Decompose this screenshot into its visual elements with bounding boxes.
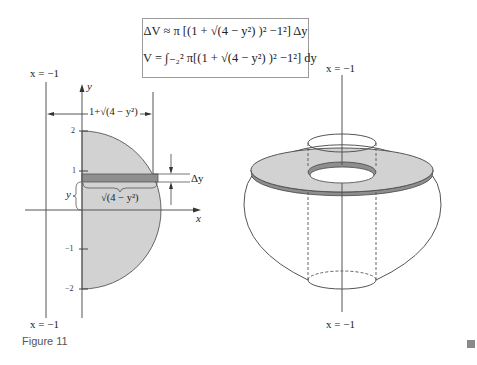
width-label: 1+√(4 − y²) (89, 106, 138, 117)
delta-v-formula: ΔV ≈ π [(1 + √(4 − y²) )² −1²] Δy (143, 24, 308, 39)
axis-label-top: x = −1 (326, 62, 355, 74)
figure-caption: Figure 11 (22, 335, 68, 347)
end-of-example-icon (467, 340, 475, 348)
y-axis-arrow-icon (80, 84, 85, 92)
line-label-top: x = −1 (30, 67, 59, 79)
formula-box: ΔV ≈ π [(1 + √(4 − y²) )² −1²] Δy V = ∫₋… (142, 18, 309, 78)
tick-2: 2 (71, 126, 75, 135)
strip-width-label: √(4 − y²) (101, 192, 139, 203)
volume-formula: V = ∫₋₂² π[(1 + √(4 − y²) )² −1²] dy (143, 50, 308, 66)
tick-neg-1: −1 (65, 244, 74, 253)
washer-hole (310, 167, 374, 183)
y-brace (73, 182, 81, 210)
strip (82, 174, 158, 182)
x-axis-label: x (196, 212, 201, 224)
right-diagram (244, 75, 441, 312)
tick-neg-2: −2 (65, 284, 74, 293)
delta-y-label: Δy (191, 172, 204, 184)
line-label-bottom: x = −1 (30, 318, 59, 330)
axis-label-bottom: x = −1 (326, 318, 355, 330)
strip-height-label: y (66, 188, 71, 200)
y-axis-label: y (87, 80, 92, 92)
tick-1: 1 (72, 166, 76, 175)
